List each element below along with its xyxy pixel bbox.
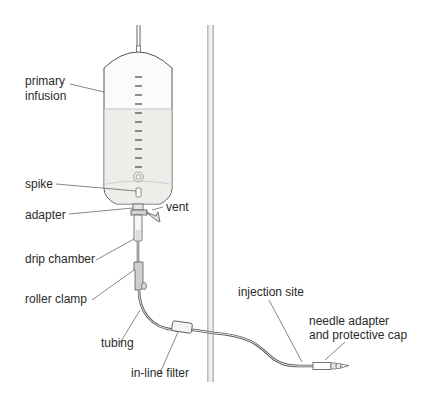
drip-chamber-part (134, 215, 142, 262)
iv-pole (208, 25, 213, 382)
iv-infusion-diagram: primary infusion spike adapter vent drip… (0, 0, 426, 401)
label-roller-clamp: roller clamp (25, 292, 87, 306)
roller-clamp-part (134, 262, 147, 290)
vent-part (146, 212, 160, 222)
label-vent: vent (166, 200, 189, 214)
leader-lines (56, 84, 345, 373)
injection-site-part (313, 363, 331, 370)
label-primary-infusion-line2: infusion (25, 89, 66, 103)
label-drip-chamber: drip chamber (25, 252, 95, 266)
label-inline-filter: in-line filter (131, 366, 189, 380)
label-adapter: adapter (25, 208, 66, 222)
needle-adapter-part (331, 363, 349, 369)
label-injection-site: injection site (238, 285, 304, 299)
spike-part (136, 188, 141, 197)
label-needle-adapter-line2: and protective cap (309, 328, 407, 342)
inline-filter-part (171, 321, 192, 334)
label-primary-infusion-line1: primary (25, 74, 65, 88)
label-tubing: tubing (101, 336, 134, 350)
label-needle-adapter-line1: needle adapter (309, 314, 389, 328)
tubing-line (139, 290, 315, 366)
primary-infusion-bag (104, 52, 172, 204)
label-spike: spike (25, 177, 53, 191)
